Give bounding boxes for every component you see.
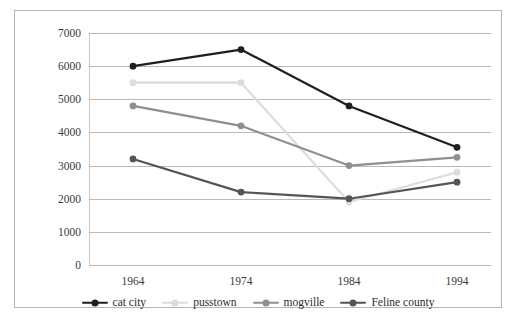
y-tick-label: 1000 — [58, 226, 81, 238]
x-tick-label: 1964 — [122, 275, 145, 287]
data-point — [130, 63, 137, 70]
series-lines-group — [89, 33, 491, 265]
series-line — [133, 106, 457, 166]
gridline — [89, 265, 491, 266]
series-cat-city — [130, 46, 461, 151]
legend-dot — [172, 299, 179, 306]
line-chart-figure: 01000200030004000500060007000 1964197419… — [0, 0, 520, 324]
legend-dot — [91, 299, 98, 306]
y-tick-label: 6000 — [58, 60, 81, 72]
data-point — [454, 169, 461, 176]
data-point — [238, 189, 245, 196]
legend-marker-icon — [253, 298, 279, 307]
y-tick-label: 3000 — [58, 160, 81, 172]
data-point — [346, 195, 353, 202]
y-tick-label: 5000 — [58, 93, 81, 105]
plot-area: 01000200030004000500060007000 1964197419… — [89, 33, 491, 265]
chart-frame-border: 01000200030004000500060007000 1964197419… — [14, 10, 502, 308]
y-tick-label: 2000 — [58, 193, 81, 205]
legend-item-cat-city[interactable]: cat city — [82, 297, 147, 309]
series-line — [133, 159, 457, 199]
legend-item-pusstown[interactable]: pusstown — [162, 297, 236, 309]
legend-label: pusstown — [193, 297, 236, 309]
y-tick-label: 4000 — [58, 126, 81, 138]
data-point — [346, 162, 353, 169]
data-point — [238, 46, 245, 53]
data-point — [346, 103, 353, 110]
data-point — [238, 79, 245, 86]
legend-label: cat city — [113, 297, 147, 309]
series-line — [133, 83, 457, 202]
data-point — [130, 156, 137, 163]
legend-dot — [262, 299, 269, 306]
y-tick-label: 0 — [75, 259, 81, 271]
legend-marker-icon — [82, 298, 108, 307]
data-point — [454, 154, 461, 161]
series-feline-county — [130, 156, 461, 203]
data-point — [454, 179, 461, 186]
series-pusstown — [130, 79, 461, 205]
legend-label: Feline county — [371, 297, 434, 309]
legend-dot — [350, 299, 357, 306]
y-tick-label: 7000 — [58, 27, 81, 39]
series-line — [133, 50, 457, 148]
x-tick-label: 1974 — [230, 275, 253, 287]
data-point — [130, 103, 137, 110]
chart-legend: cat citypusstownmogvilleFeline county — [15, 297, 501, 309]
x-tick-label: 1984 — [338, 275, 361, 287]
series-mogville — [130, 103, 461, 169]
legend-item-feline-county[interactable]: Feline county — [340, 297, 434, 309]
data-point — [238, 122, 245, 129]
legend-marker-icon — [162, 298, 188, 307]
x-tick-label: 1994 — [446, 275, 469, 287]
legend-label: mogville — [284, 297, 325, 309]
legend-item-mogville[interactable]: mogville — [253, 297, 325, 309]
data-point — [454, 144, 461, 151]
data-point — [130, 79, 137, 86]
legend-marker-icon — [340, 298, 366, 307]
